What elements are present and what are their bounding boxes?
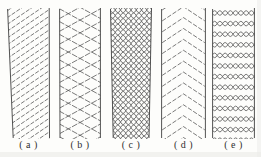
panel-a: ( a ) xyxy=(7,8,50,150)
pattern-c-dense-diamond-mesh xyxy=(110,8,152,139)
panel-a-label: ( a ) xyxy=(7,139,50,150)
panel-e-label: ( e ) xyxy=(212,139,255,150)
panel-c: ( c ) xyxy=(110,8,152,150)
panel-b-label: ( b ) xyxy=(59,139,101,150)
scan-edge-right xyxy=(257,0,261,157)
pattern-b-cross-lattice xyxy=(59,8,101,139)
panel-d: ( d ) xyxy=(161,8,206,150)
pattern-a-diagonal-hatch xyxy=(7,8,50,139)
panel-c-label: ( c ) xyxy=(110,139,152,150)
pattern-e-svg xyxy=(212,8,255,139)
scan-shadow-bottom xyxy=(0,152,261,157)
panel-e: ( e ) xyxy=(212,8,255,150)
pattern-a-svg xyxy=(7,8,50,139)
panel-d-label: ( d ) xyxy=(161,139,206,150)
pattern-d-chevron xyxy=(161,8,206,139)
pattern-d-svg xyxy=(161,8,206,139)
panel-b: ( b ) xyxy=(59,8,101,150)
winding-patterns-figure: ( a ) ( b ) ( c ) ( d ) ( e ) xyxy=(0,0,261,157)
pattern-c-svg xyxy=(110,8,152,139)
pattern-b-svg xyxy=(59,8,101,139)
pattern-e-wave-rows xyxy=(212,8,255,139)
